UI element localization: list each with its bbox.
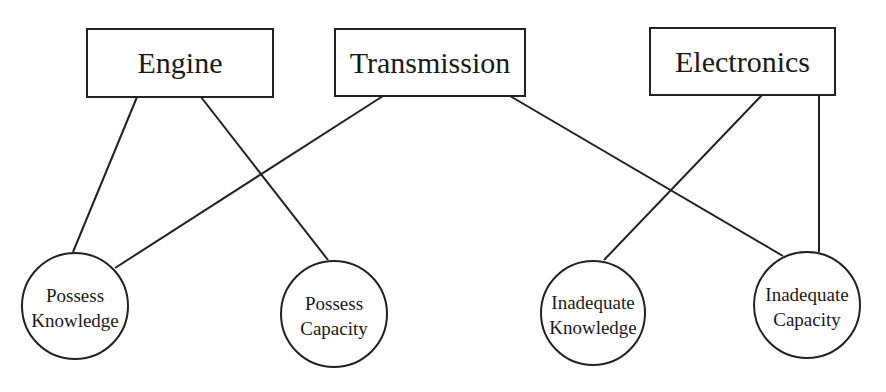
circles-group: PossessKnowledgePossessCapacityInadequat… <box>22 252 860 367</box>
node-possess-knowledge-circle <box>22 253 128 359</box>
diagram-svg: EngineTransmissionElectronics PossessKno… <box>0 0 886 392</box>
node-inadequate-knowledge-circle <box>541 261 645 365</box>
node-possess-capacity-line2: Capacity <box>300 318 368 339</box>
node-inadequate-knowledge-line2: Knowledge <box>549 317 637 338</box>
node-possess-capacity: PossessCapacity <box>281 261 387 367</box>
node-possess-knowledge-line1: Possess <box>46 285 104 306</box>
node-inadequate-knowledge-line1: Inadequate <box>551 292 634 313</box>
edge-transmission-to-inadequate-capacity <box>510 96 783 256</box>
box-transmission-label: Transmission <box>350 46 511 79</box>
node-inadequate-capacity: InadequateCapacity <box>754 252 860 358</box>
edge-transmission-to-possess-knowledge <box>115 96 383 268</box>
node-possess-capacity-circle <box>281 261 387 367</box>
node-inadequate-capacity-line2: Capacity <box>773 309 841 330</box>
boxes-group: EngineTransmissionElectronics <box>87 28 835 97</box>
edge-engine-to-possess-knowledge <box>73 97 137 252</box>
node-possess-knowledge-line2: Knowledge <box>31 310 119 331</box>
edge-electronics-to-inadequate-knowledge <box>604 95 762 260</box>
box-engine-label: Engine <box>138 46 223 79</box>
box-electronics: Electronics <box>650 28 835 95</box>
box-engine: Engine <box>87 29 273 97</box>
diagram-canvas: EngineTransmissionElectronics PossessKno… <box>0 0 886 392</box>
edges-group <box>73 95 819 268</box>
node-possess-knowledge: PossessKnowledge <box>22 253 128 359</box>
box-electronics-label: Electronics <box>675 45 810 78</box>
node-inadequate-knowledge: InadequateKnowledge <box>541 261 645 365</box>
node-inadequate-capacity-circle <box>754 252 860 358</box>
node-inadequate-capacity-line1: Inadequate <box>765 284 848 305</box>
edge-engine-to-possess-capacity <box>201 97 328 260</box>
node-possess-capacity-line1: Possess <box>305 293 363 314</box>
box-transmission: Transmission <box>335 29 525 96</box>
